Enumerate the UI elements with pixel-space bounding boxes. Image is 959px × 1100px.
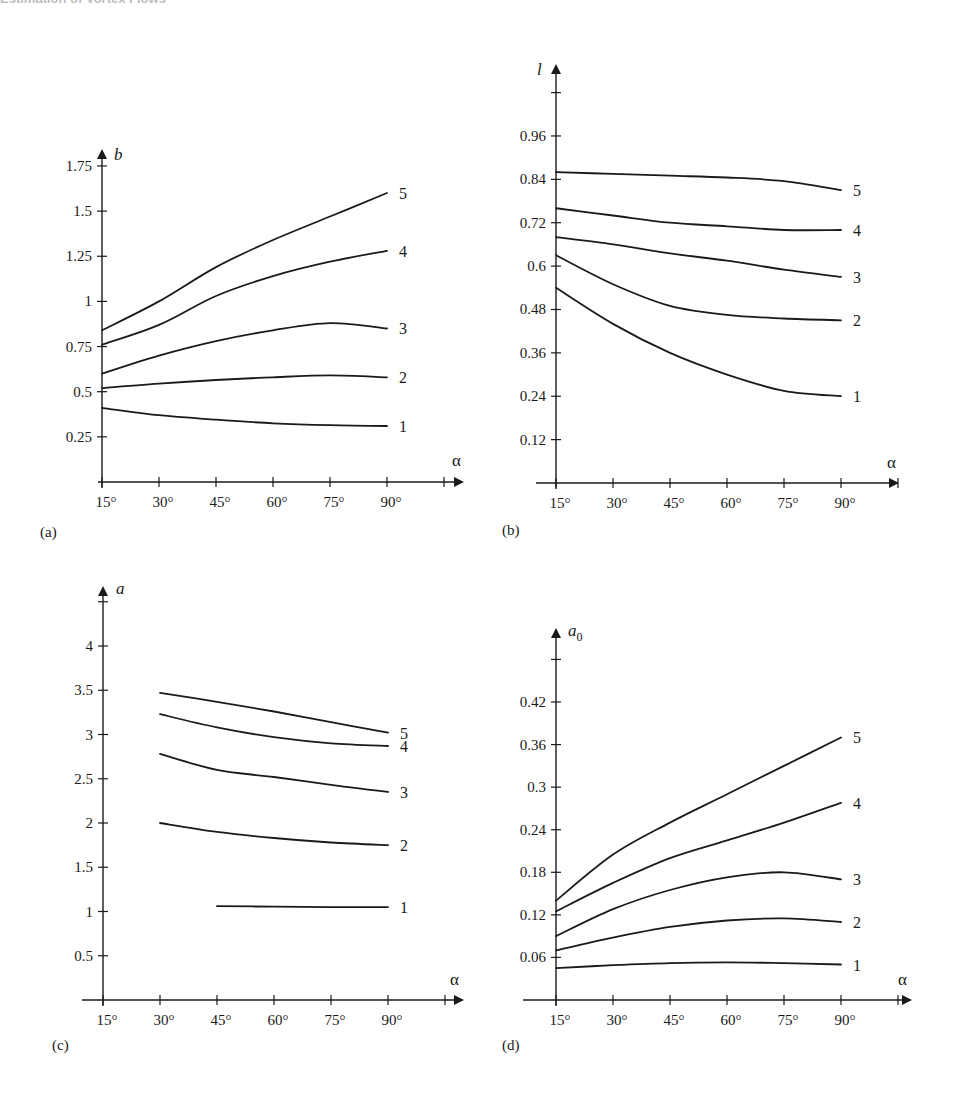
y-tick-label: 0.6	[527, 258, 546, 274]
curve-2	[160, 823, 388, 845]
y-tick-label: 0.06	[520, 949, 547, 965]
y-tick-label: 0.36	[520, 737, 547, 753]
curve-number-label: 3	[400, 784, 408, 801]
y-tick-label: 1	[86, 904, 94, 920]
y-tick-label: 1.5	[74, 859, 93, 875]
y-tick-label: 0.12	[520, 907, 546, 923]
x-tick-label: 60°	[267, 494, 288, 510]
curve-number-label: 1	[399, 418, 407, 435]
y-tick-label: 0.36	[520, 345, 547, 361]
curve-4	[556, 208, 841, 230]
y-axis-label: b	[114, 145, 123, 164]
y-tick-label: 0.48	[520, 301, 546, 317]
y-tick-label: 0.12	[520, 432, 546, 448]
x-axis-label-alpha: α	[450, 970, 459, 989]
curve-number-label: 2	[400, 837, 408, 854]
y-axis-label: a0	[568, 621, 583, 644]
panel-label: (a)	[40, 524, 57, 541]
curve-2	[556, 255, 841, 320]
curve-3	[160, 754, 388, 792]
x-tick-label: 30°	[607, 495, 628, 511]
y-tick-label: 0.3	[527, 779, 546, 795]
curve-number-label: 2	[399, 369, 407, 386]
curve-number-label: 2	[853, 312, 861, 329]
x-tick-label: 15°	[550, 1012, 571, 1028]
y-axis-label: l	[537, 60, 542, 79]
y-tick-label: 3.5	[74, 682, 93, 698]
curve-number-label: 4	[399, 243, 407, 260]
panel-label: (b)	[502, 522, 520, 539]
x-tick-label: 75°	[325, 1012, 346, 1028]
x-tick-label: 45°	[664, 1012, 685, 1028]
x-tick-label: 60°	[721, 495, 742, 511]
curve-number-label: 2	[853, 914, 861, 931]
y-tick-label: 1.75	[66, 158, 92, 174]
curve-4	[102, 251, 387, 345]
y-tick-label: 2	[86, 815, 94, 831]
y-tick-label: 0.5	[74, 948, 93, 964]
curve-1	[556, 962, 841, 968]
y-tick-label: 0.84	[520, 171, 547, 187]
curve-2	[556, 918, 841, 950]
x-tick-label: 15°	[96, 494, 117, 510]
curve-3	[556, 237, 841, 277]
curve-5	[102, 193, 387, 330]
y-axis-label: a	[116, 579, 125, 598]
y-tick-label: 4	[86, 638, 94, 654]
figure-four-panel-charts: 0.250.50.7511.251.51.7515°30°45°60°75°90…	[0, 0, 959, 1100]
curve-4	[556, 803, 841, 912]
curve-number-label: 3	[853, 871, 861, 888]
panel-label: (c)	[52, 1037, 69, 1054]
x-axis-label-alpha: α	[452, 451, 461, 470]
x-tick-label: 15°	[550, 495, 571, 511]
curve-5	[556, 738, 841, 901]
x-tick-label: 75°	[778, 1012, 799, 1028]
curve-number-label: 4	[853, 795, 861, 812]
y-tick-label: 0.25	[66, 429, 92, 445]
x-tick-label: 90°	[835, 1012, 856, 1028]
y-tick-label: 1.5	[73, 203, 92, 219]
x-tick-label: 90°	[835, 495, 856, 511]
y-tick-label: 3	[86, 727, 94, 743]
curve-1	[556, 288, 841, 396]
x-tick-label: 90°	[382, 1012, 403, 1028]
x-tick-label: 75°	[324, 494, 345, 510]
curve-number-label: 1	[853, 957, 861, 974]
x-tick-label: 45°	[210, 494, 231, 510]
curve-3	[556, 872, 841, 936]
y-tick-label: 0.18	[520, 864, 546, 880]
y-tick-label: 1	[85, 293, 93, 309]
x-tick-label: 30°	[154, 1012, 175, 1028]
y-tick-label: 0.24	[520, 388, 547, 404]
y-tick-label: 0.75	[66, 339, 92, 355]
chart-panel-a: 0.250.50.7511.251.51.7515°30°45°60°75°90…	[40, 145, 462, 541]
y-tick-label: 0.5	[73, 384, 92, 400]
curve-1	[217, 906, 388, 907]
chart-panel-d: 0.060.120.180.240.30.360.4215°30°45°60°7…	[502, 621, 910, 1054]
x-tick-label: 30°	[153, 494, 174, 510]
x-tick-label: 15°	[97, 1012, 118, 1028]
chart-panel-b: 0.120.240.360.480.60.720.840.9615°30°45°…	[502, 60, 898, 539]
curve-number-label: 1	[400, 899, 408, 916]
curve-number-label: 3	[399, 320, 407, 337]
curve-4	[160, 714, 388, 746]
y-tick-label: 0.96	[520, 128, 547, 144]
y-tick-label: 0.42	[520, 694, 546, 710]
curve-number-label: 1	[853, 388, 861, 405]
y-tick-label: 0.24	[520, 822, 547, 838]
y-tick-label: 0.72	[520, 215, 546, 231]
curve-1	[102, 408, 387, 426]
x-tick-label: 60°	[268, 1012, 289, 1028]
x-tick-label: 45°	[211, 1012, 232, 1028]
x-tick-label: 90°	[381, 494, 402, 510]
x-axis-label-alpha: α	[887, 453, 896, 472]
curve-number-label: 5	[400, 725, 408, 742]
x-tick-label: 45°	[664, 495, 685, 511]
y-tick-label: 2.5	[74, 771, 93, 787]
x-tick-label: 30°	[607, 1012, 628, 1028]
x-tick-label: 75°	[778, 495, 799, 511]
x-tick-label: 60°	[721, 1012, 742, 1028]
curve-number-label: 3	[853, 269, 861, 286]
curve-number-label: 4	[853, 222, 861, 239]
curve-5	[556, 172, 841, 190]
